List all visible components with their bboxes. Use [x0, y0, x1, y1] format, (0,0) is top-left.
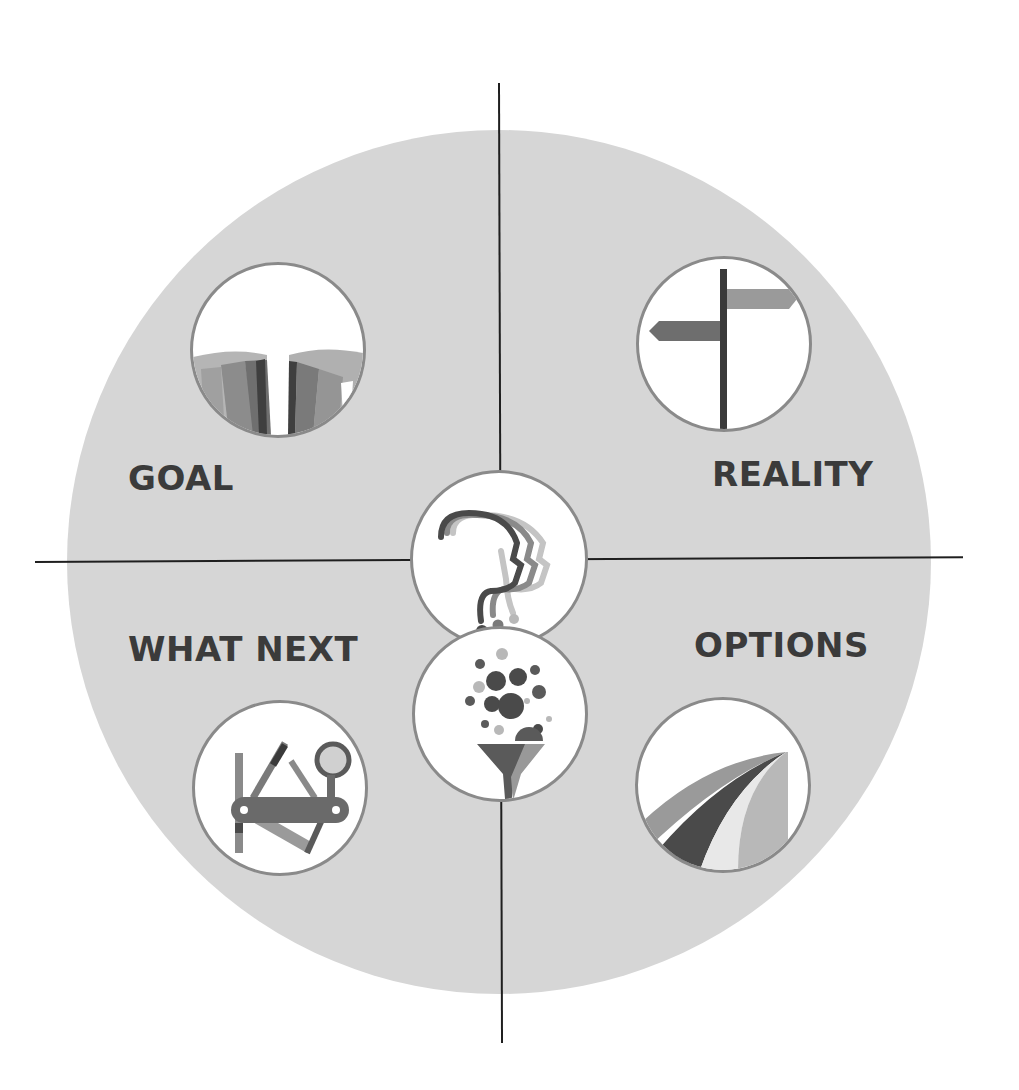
diverging-paths-icon: [635, 697, 811, 873]
signpost-icon: [636, 256, 812, 432]
canyon-gap-icon: [190, 262, 366, 438]
goal-label: GOAL: [128, 458, 234, 498]
reality-label: REALITY: [712, 454, 873, 494]
options-label: OPTIONS: [694, 625, 869, 665]
grow-model-diagram: GOAL REALITY WHAT NEXT: [0, 0, 1019, 1090]
multitool-icon: [192, 700, 368, 876]
thinking-heads-question-icon: [410, 470, 588, 648]
what-next-label: WHAT NEXT: [128, 629, 358, 669]
funnel-ideas-icon: [412, 626, 588, 802]
